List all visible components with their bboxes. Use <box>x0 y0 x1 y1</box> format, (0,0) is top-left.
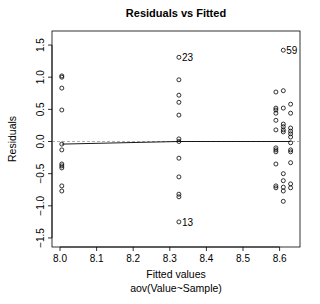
x-axis-label: Fitted values <box>146 268 206 280</box>
data-point <box>60 148 64 152</box>
y-tick-label: 0.0 <box>35 134 46 148</box>
data-point <box>177 93 181 97</box>
residuals-vs-fitted-chart: Residuals vs Fitted 592313 8.08.18.28.38… <box>0 0 320 304</box>
plot-border <box>52 31 300 247</box>
x-tick-label: 8.5 <box>236 253 250 264</box>
data-point <box>177 113 181 117</box>
data-points <box>60 48 293 224</box>
data-point <box>289 186 293 190</box>
data-point <box>60 189 64 193</box>
data-point <box>274 162 278 166</box>
data-point <box>281 185 285 189</box>
outlier-label: 59 <box>286 45 298 56</box>
x-tick-label: 8.6 <box>273 253 287 264</box>
data-point <box>177 100 181 104</box>
lowess-smoother <box>62 142 291 145</box>
point-labels: 592313 <box>182 45 298 228</box>
data-point <box>281 89 285 93</box>
data-point <box>281 189 285 193</box>
data-point <box>289 102 293 106</box>
y-tick-label: 1.5 <box>35 38 46 52</box>
smoother-line <box>62 142 291 145</box>
x-axis: 8.08.18.28.38.48.58.6 <box>53 247 287 264</box>
y-tick-label: −0.5 <box>35 163 46 183</box>
data-point <box>281 106 285 110</box>
data-point <box>274 90 278 94</box>
chart-title: Residuals vs Fitted <box>126 7 226 19</box>
data-point <box>60 86 64 90</box>
data-point <box>289 111 293 115</box>
data-point <box>177 156 181 160</box>
data-point <box>281 199 285 203</box>
x-tick-label: 8.1 <box>90 253 104 264</box>
data-point <box>177 55 181 59</box>
data-point <box>281 172 285 176</box>
data-point <box>177 78 181 82</box>
y-tick-label: 0.5 <box>35 102 46 116</box>
data-point <box>274 118 278 122</box>
x-tick-label: 8.4 <box>199 253 213 264</box>
x-tick-label: 8.0 <box>53 253 67 264</box>
y-axis-label: Residuals <box>6 116 18 162</box>
data-point <box>281 48 285 52</box>
y-tick-label: −1.5 <box>35 228 46 248</box>
outlier-label: 23 <box>182 52 194 63</box>
y-axis: −1.5−1.0−0.50.00.51.01.5 <box>35 38 52 248</box>
x-tick-label: 8.2 <box>126 253 140 264</box>
data-point <box>289 161 293 165</box>
plot-frame <box>52 31 300 247</box>
data-point <box>177 175 181 179</box>
model-formula-label: aov(Value~Sample) <box>130 282 222 294</box>
data-point <box>289 182 293 186</box>
outlier-label: 13 <box>182 217 194 228</box>
data-point <box>281 179 285 183</box>
y-tick-label: −1.0 <box>35 195 46 215</box>
data-point <box>60 108 64 112</box>
data-point <box>177 220 181 224</box>
data-point <box>274 128 278 132</box>
x-tick-label: 8.3 <box>163 253 177 264</box>
data-point <box>177 195 181 199</box>
chart-canvas: Residuals vs Fitted 592313 8.08.18.28.38… <box>0 0 320 304</box>
y-tick-label: 1.0 <box>35 70 46 84</box>
data-point <box>60 184 64 188</box>
